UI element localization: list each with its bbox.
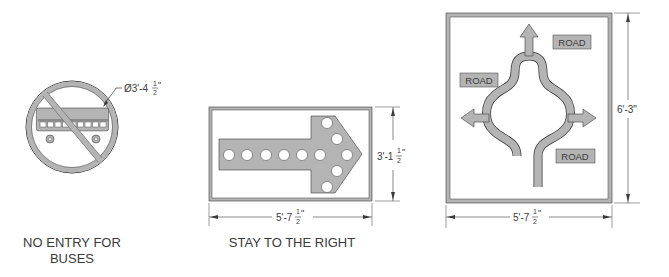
caption-no-entry-line1: NO ENTRY FOR <box>23 235 121 250</box>
stay-right-height-frac-den: 2 <box>397 157 401 164</box>
roundabout-width-frac-den: 2 <box>533 218 537 225</box>
stay-right-width-frac-den: 2 <box>296 218 300 225</box>
stay-right-height-inch: " <box>402 147 405 157</box>
roundabout-sign <box>446 13 640 228</box>
diameter-frac-den: 2 <box>153 89 157 96</box>
diameter-label: Ø3'-4 <box>124 83 149 94</box>
roundabout-height-label: 6'-3" <box>617 104 637 115</box>
no-entry-buses-sign <box>26 81 122 173</box>
sign-drawings: Ø3'-4 1 2 " NO ENTRY FOR BUSES <box>0 0 669 277</box>
stay-right-width-frac-num: 1 <box>296 208 300 215</box>
caption-no-entry-line2: BUSES <box>50 251 94 266</box>
road-label-top: ROAD <box>558 37 586 48</box>
road-label-bottom: ROAD <box>561 151 589 162</box>
stay-right-height-frac-num: 1 <box>397 147 401 154</box>
stay-right-width-label: 5'-7 <box>276 212 293 223</box>
diameter-frac-num: 1 <box>153 80 157 87</box>
stay-right-width-inch: " <box>301 208 304 218</box>
stay-right-sign <box>209 107 400 226</box>
roundabout-width-frac-num: 1 <box>533 208 537 215</box>
diameter-inch: " <box>158 80 161 90</box>
road-label-left: ROAD <box>465 75 493 86</box>
roundabout-width-inch: " <box>538 208 541 218</box>
caption-stay-right: STAY TO THE RIGHT <box>229 235 355 250</box>
stay-right-height-label: 3'-1 <box>377 151 394 162</box>
roundabout-width-label: 5'-7 <box>513 212 530 223</box>
